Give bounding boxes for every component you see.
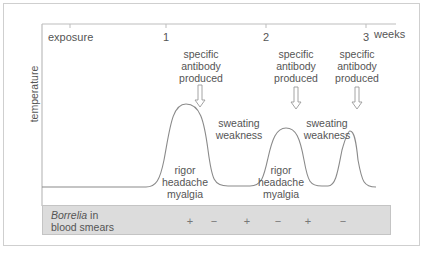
smear-sign-negative: − <box>208 215 220 227</box>
smear-sign-positive: + <box>302 215 314 227</box>
annotation-line: produced <box>176 72 226 84</box>
smear-sign-negative: − <box>272 215 284 227</box>
title-line2: blood smears <box>51 221 114 233</box>
annotation-line: produced <box>271 72 321 84</box>
organism-name: Borrelia <box>51 209 87 221</box>
antibody-annotation-2: specific antibody produced <box>271 48 321 84</box>
antibody-annotation-3: specific antibody produced <box>332 48 382 84</box>
antibody-arrow-icon <box>291 87 301 109</box>
y-axis-label: temperature <box>28 64 40 124</box>
peak-symptoms-2: rigor headache myalgia <box>256 164 306 200</box>
symptom-line: myalgia <box>256 188 306 200</box>
annotation-line: specific <box>176 48 226 60</box>
annotation-line: antibody <box>176 60 226 72</box>
symptom-line: sweating <box>214 117 264 129</box>
symptom-line: sweating <box>302 117 352 129</box>
symptom-line: weakness <box>302 129 352 141</box>
annotation-line: antibody <box>332 60 382 72</box>
tick-label-week-3: 3 <box>363 31 369 43</box>
tick-label-week-1: 1 <box>163 31 169 43</box>
tick-label-week-2: 2 <box>263 31 269 43</box>
annotation-line: specific <box>332 48 382 60</box>
trough-symptoms-2: sweating weakness <box>302 117 352 141</box>
title-rest: in <box>87 209 98 221</box>
smear-sign-positive: + <box>241 215 253 227</box>
symptom-line: headache <box>160 176 210 188</box>
symptom-line: myalgia <box>160 188 210 200</box>
antibody-arrow-icon <box>352 87 362 109</box>
annotation-line: produced <box>332 72 382 84</box>
x-axis-unit: weeks <box>374 28 405 40</box>
peak-symptoms-1: rigor headache myalgia <box>160 164 210 200</box>
annotation-line: specific <box>271 48 321 60</box>
blood-smear-title: Borrelia in blood smears <box>51 209 114 233</box>
smear-sign-negative: − <box>337 215 349 227</box>
symptom-line: rigor <box>160 164 210 176</box>
trough-symptoms-1: sweating weakness <box>214 117 264 141</box>
antibody-arrow-icon <box>195 85 205 107</box>
symptom-line: rigor <box>256 164 306 176</box>
smear-sign-positive: + <box>184 215 196 227</box>
tick-label-exposure: exposure <box>48 31 93 43</box>
symptom-line: weakness <box>214 129 264 141</box>
symptom-line: headache <box>256 176 306 188</box>
blood-smear-row: Borrelia in blood smears + − + − + − <box>42 205 391 235</box>
antibody-annotation-1: specific antibody produced <box>176 48 226 84</box>
annotation-line: antibody <box>271 60 321 72</box>
